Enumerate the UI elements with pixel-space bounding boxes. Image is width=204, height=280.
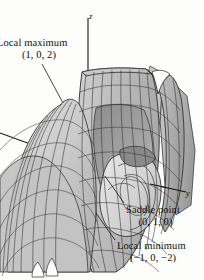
saddle-point-label: Saddle point bbox=[126, 205, 180, 217]
local-maximum-label: Local maximum bbox=[0, 38, 67, 50]
surface-plot-figure: Local maximum (1, 0, 2) Saddle point (0,… bbox=[0, 0, 204, 280]
local-minimum-coordinates: (−1, 0, −2) bbox=[117, 253, 189, 265]
axis-label-y: y bbox=[186, 188, 190, 198]
saddle-point-coordinates: (0, 1, 0) bbox=[126, 217, 185, 229]
local-maximum-coordinates: (1, 0, 2) bbox=[8, 50, 70, 62]
leader-local-maximum bbox=[42, 64, 63, 103]
axis-label-z: z bbox=[89, 11, 92, 21]
local-minimum-label: Local minimum bbox=[117, 241, 186, 253]
